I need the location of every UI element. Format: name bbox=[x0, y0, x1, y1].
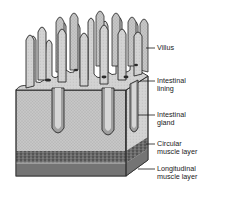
label-intestinal-gland: Intestinal gland bbox=[157, 111, 186, 127]
longitudinal-muscle-band bbox=[16, 163, 126, 176]
tissue-block bbox=[16, 76, 148, 176]
label-villus: Villus bbox=[157, 44, 174, 52]
label-intestinal-lining: Intestinal lining bbox=[157, 77, 186, 93]
label-villus-text: Villus bbox=[157, 44, 174, 52]
label-circular-muscle-layer: Circular muscle layer bbox=[157, 140, 197, 156]
label-circular-muscle-line2: muscle layer bbox=[157, 148, 197, 156]
label-intestinal-gland-line2: gland bbox=[157, 119, 186, 127]
circular-muscle-band bbox=[16, 151, 126, 163]
label-longitudinal-muscle-line2: muscle layer bbox=[157, 173, 197, 181]
label-intestinal-lining-line2: lining bbox=[157, 85, 186, 93]
label-longitudinal-muscle-layer: Longitudinal muscle layer bbox=[157, 165, 197, 181]
villi-front-row bbox=[26, 25, 142, 88]
